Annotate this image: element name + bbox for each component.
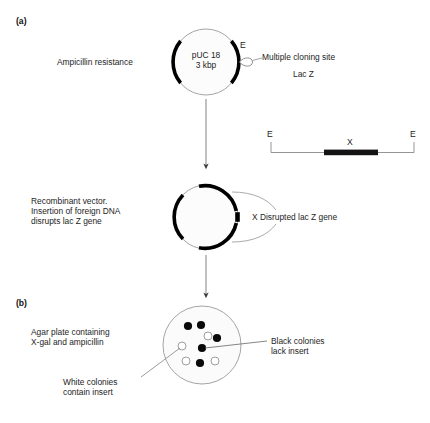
white-colony: [211, 357, 219, 365]
white-colony: [204, 332, 212, 340]
plasmid-name-line1: pUC 18: [181, 50, 231, 60]
ecori-site-label-fragment-left: E: [267, 129, 273, 140]
mcs-leader-line: [253, 58, 263, 61]
black-colony: [197, 321, 205, 329]
lacz-label: Lac Z: [293, 69, 314, 80]
recombinant-caption-line2: Insertion of foreign DNA: [31, 206, 120, 217]
black-colony: [184, 322, 192, 330]
panel-tag-a: (a): [16, 16, 27, 27]
figure-root: (a) Ampicillin resistance pUC 18 3 kbp E…: [0, 0, 430, 423]
ecori-site-label-fragment-right: E: [410, 129, 416, 140]
ecori-site-label-plasmid: E: [240, 40, 246, 51]
disrupted-lacz-lower-leader: [232, 224, 276, 242]
white-colonies-label-line2: contain insert: [63, 387, 113, 398]
white-colony: [182, 357, 190, 365]
recombinant-caption-line3: disrupts lac Z gene: [31, 216, 102, 227]
ampicillin-resistance-label: Ampicillin resistance: [57, 57, 133, 68]
white-colonies-label-line1: White colonies: [63, 377, 117, 388]
black-colony: [198, 344, 206, 352]
agar-plate-caption-line2: X-gal and ampicillin: [31, 337, 104, 348]
multiple-cloning-site-label: Multiple cloning site: [262, 52, 335, 63]
black-colonies-label-line2: lack insert: [271, 346, 309, 357]
recombinant-caption-line1: Recombinant vector.: [31, 196, 107, 207]
agar-plate-caption-line1: Agar plate containing: [31, 327, 110, 338]
black-colony: [196, 359, 204, 367]
black-colonies-label-line1: Black colonies: [271, 336, 325, 347]
disrupted-lacz-label: X Disrupted lac Z gene: [252, 212, 337, 223]
black-colony: [213, 334, 221, 342]
panel-tag-b: (b): [16, 298, 27, 309]
foreign-dna-insert-block: [235, 212, 240, 222]
multiple-cloning-site-loop: [240, 58, 253, 66]
disrupted-lacz-upper-leader: [232, 192, 276, 210]
plasmid-size-line2: 3 kbp: [181, 60, 231, 70]
insert-fragment-label-x: X: [347, 137, 353, 148]
insert-fragment-x-segment: [324, 150, 378, 156]
